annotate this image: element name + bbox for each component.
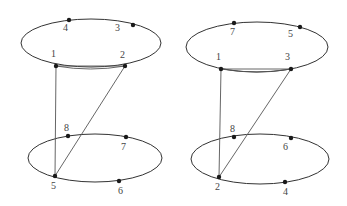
- vertex-4-dot: [283, 180, 287, 184]
- vertex-label: 5: [288, 28, 293, 39]
- vertex-6-dot: [289, 136, 293, 140]
- vertex-3-dot: [131, 23, 135, 27]
- vertex-label: 2: [215, 181, 220, 192]
- vertex-label: 7: [230, 26, 235, 37]
- vertex-8-dot: [66, 134, 70, 138]
- edge-1-2: [219, 69, 221, 177]
- vertex-label: 3: [285, 51, 290, 62]
- vertex-6-dot: [117, 179, 121, 183]
- vertex-label: 3: [115, 22, 120, 33]
- bottom-cycle-ellipse: [191, 134, 329, 184]
- vertex-label: 7: [121, 141, 126, 152]
- vertex-1-dot: [219, 67, 223, 71]
- vertex-label: 5: [51, 180, 56, 191]
- vertex-label: 6: [118, 185, 123, 196]
- edge-2-5: [55, 66, 125, 176]
- vertex-5-dot: [298, 25, 302, 29]
- vertex-label: 4: [283, 186, 288, 197]
- vertex-1-dot: [54, 64, 58, 68]
- vertex-label: 4: [63, 22, 68, 33]
- vertex-label: 8: [64, 122, 69, 133]
- vertex-3-dot: [289, 67, 293, 71]
- left-graph-diagram: 43128756: [21, 18, 162, 196]
- right-graph-diagram: 75138624: [186, 21, 329, 197]
- vertex-label: 2: [120, 49, 125, 60]
- vertex-8-dot: [232, 135, 236, 139]
- vertex-label: 1: [216, 51, 221, 62]
- vertex-5-dot: [53, 174, 57, 178]
- vertex-label: 6: [283, 141, 288, 152]
- edge-1-5: [55, 66, 56, 176]
- vertex-2-dot: [217, 175, 221, 179]
- graph-diagram-canvas: 43128756 75138624: [0, 0, 347, 206]
- vertex-2-dot: [123, 64, 127, 68]
- bottom-cycle-ellipse: [28, 134, 162, 182]
- vertex-label: 1: [51, 48, 56, 59]
- top-cycle-ellipse: [186, 22, 328, 72]
- vertex-label: 8: [230, 123, 235, 134]
- vertex-7-dot: [124, 135, 128, 139]
- vertex-7-dot: [232, 21, 236, 25]
- top-cycle-ellipse: [21, 19, 161, 67]
